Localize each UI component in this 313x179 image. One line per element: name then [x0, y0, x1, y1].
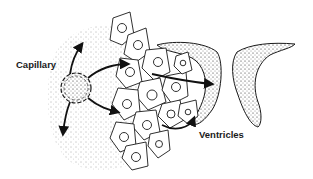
capillary — [61, 73, 91, 103]
cell-cluster — [110, 12, 198, 170]
right-ventricle — [233, 43, 295, 127]
ventricles-label: Ventricles — [199, 129, 244, 140]
capillary-ventricle-diagram: Capillary Ventricles — [0, 0, 313, 179]
capillary-label: Capillary — [16, 59, 57, 70]
